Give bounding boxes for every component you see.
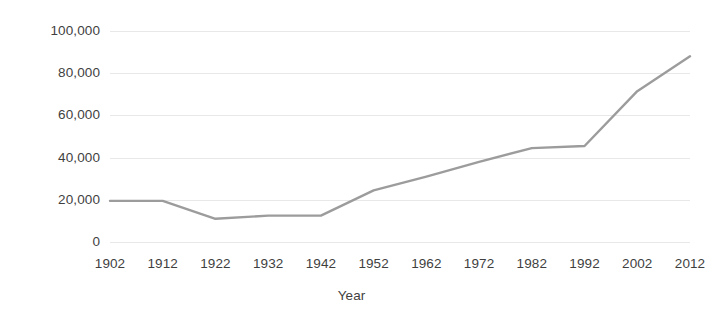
x-tick-label: 1992 xyxy=(555,256,615,272)
x-tick-label: 1922 xyxy=(185,256,245,272)
x-axis: 1902191219221932194219521962197219821992… xyxy=(110,256,690,276)
x-tick-label: 1912 xyxy=(133,256,193,272)
x-tick-label: 1902 xyxy=(80,256,140,272)
y-tick-label: 60,000 xyxy=(0,108,100,122)
x-tick-label: 1932 xyxy=(238,256,298,272)
plot-area xyxy=(110,31,690,242)
y-axis: 020,00040,00060,00080,000100,000 xyxy=(0,0,100,326)
series-line xyxy=(110,31,690,242)
x-tick-label: 1972 xyxy=(449,256,509,272)
x-tick-label: 1952 xyxy=(344,256,404,272)
y-tick-label: 0 xyxy=(0,235,100,249)
x-tick-label: 1942 xyxy=(291,256,351,272)
x-tick-label: 2012 xyxy=(660,256,709,272)
y-tick-label: 40,000 xyxy=(0,151,100,165)
gridline xyxy=(110,242,690,243)
x-axis-title: Year xyxy=(0,288,703,304)
x-tick-label: 2002 xyxy=(607,256,667,272)
x-tick-label: 1982 xyxy=(502,256,562,272)
x-tick-label: 1962 xyxy=(396,256,456,272)
y-tick-label: 100,000 xyxy=(0,24,100,38)
y-tick-label: 20,000 xyxy=(0,193,100,207)
y-tick-label: 80,000 xyxy=(0,66,100,80)
